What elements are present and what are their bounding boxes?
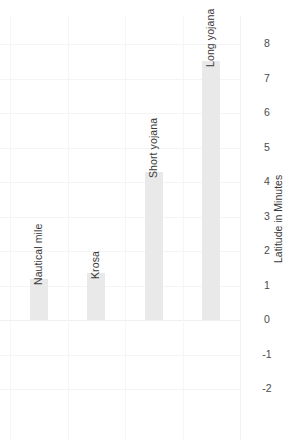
category-gridline bbox=[10, 16, 11, 440]
value-tick-label: -2 bbox=[256, 382, 278, 394]
category-gridline bbox=[125, 16, 126, 440]
value-axis-title: Latitude in Minutes bbox=[272, 175, 284, 263]
bar-label: Short yojana bbox=[147, 117, 159, 177]
value-tick-label: -1 bbox=[256, 348, 278, 360]
value-tick-label: 5 bbox=[256, 141, 278, 153]
bar-label: Nautical mile bbox=[32, 223, 44, 284]
value-axis-line bbox=[240, 16, 241, 440]
value-tick-label: 7 bbox=[256, 72, 278, 84]
category-gridline bbox=[183, 16, 184, 440]
bar[interactable] bbox=[87, 273, 105, 320]
value-tick-label: 6 bbox=[256, 106, 278, 118]
bar-label: Long yojana bbox=[204, 9, 216, 67]
bar[interactable] bbox=[202, 61, 220, 320]
value-tick-label: 1 bbox=[256, 279, 278, 291]
bar-chart: Nautical mileKrosaShort yojanaLong yojan… bbox=[0, 0, 297, 446]
plot-area: Nautical mileKrosaShort yojanaLong yojan… bbox=[0, 16, 241, 440]
value-gridline bbox=[0, 389, 241, 390]
bar-label: Krosa bbox=[89, 251, 101, 279]
value-gridline bbox=[0, 355, 241, 356]
category-gridline bbox=[68, 16, 69, 440]
bar[interactable] bbox=[145, 172, 163, 320]
value-gridline bbox=[0, 320, 241, 321]
value-tick-label: 0 bbox=[256, 313, 278, 325]
value-tick-label: 8 bbox=[256, 37, 278, 49]
